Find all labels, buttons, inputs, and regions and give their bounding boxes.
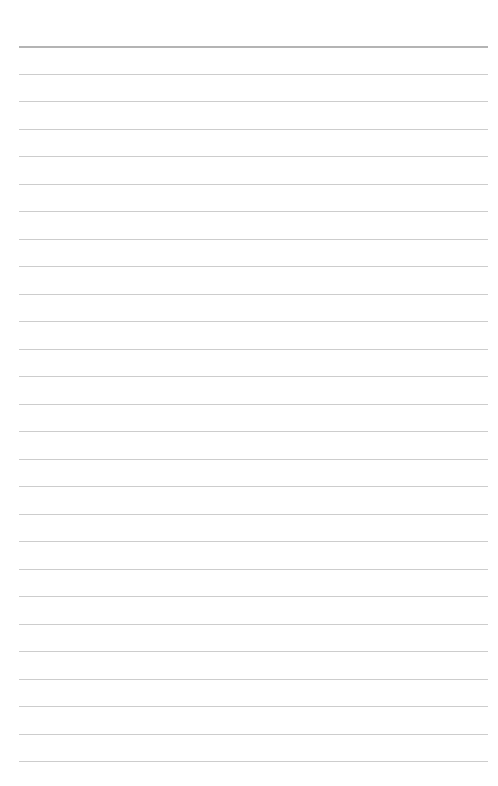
lined-paper-page	[0, 0, 498, 786]
rule-line	[19, 679, 488, 680]
rule-line	[19, 294, 488, 295]
rule-line	[19, 514, 488, 515]
rule-line	[19, 431, 488, 432]
rule-line	[19, 734, 488, 735]
rule-line	[19, 239, 488, 240]
rule-line	[19, 184, 488, 185]
rule-line	[19, 459, 488, 460]
rule-line	[19, 404, 488, 405]
top-rule-line	[19, 46, 488, 48]
rule-line	[19, 376, 488, 377]
rule-line	[19, 596, 488, 597]
rule-line	[19, 349, 488, 350]
rule-line	[19, 129, 488, 130]
rule-line	[19, 266, 488, 267]
rule-line	[19, 541, 488, 542]
rule-line	[19, 74, 488, 75]
rule-line	[19, 624, 488, 625]
rule-line	[19, 101, 488, 102]
rule-line	[19, 156, 488, 157]
rule-line	[19, 321, 488, 322]
rule-line	[19, 211, 488, 212]
rule-line	[19, 761, 488, 762]
rule-line	[19, 651, 488, 652]
rule-line	[19, 706, 488, 707]
rule-line	[19, 569, 488, 570]
rule-line	[19, 486, 488, 487]
